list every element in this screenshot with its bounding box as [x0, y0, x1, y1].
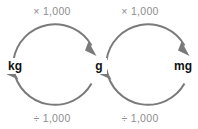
label-multiply-g-mg: × 1,000	[121, 5, 158, 17]
conversion-diagram: × 1,000 ÷ 1,000 × 1,000 ÷ 1,000 kg g	[0, 0, 198, 129]
unit-label-g: g	[95, 59, 102, 73]
label-divide-kg-g: ÷ 1,000	[33, 112, 70, 124]
conversion-diagram-canvas: × 1,000 ÷ 1,000 × 1,000 ÷ 1,000 kg g	[0, 0, 198, 129]
arc-g-to-kg-path	[14, 70, 92, 105]
unit-label-kg: kg	[8, 59, 22, 73]
arrow-kg-to-g	[14, 24, 97, 60]
arc-mg-to-g-path	[107, 70, 185, 105]
arc-g-to-mg-path	[107, 24, 185, 60]
unit-labels: kg g mg	[4, 58, 196, 74]
label-divide-g-mg: ÷ 1,000	[121, 112, 158, 124]
arc-kg-to-g-path	[14, 24, 92, 60]
unit-label-mg: mg	[174, 59, 192, 73]
arrow-g-to-mg	[107, 24, 190, 60]
label-multiply-kg-g: × 1,000	[33, 5, 70, 17]
